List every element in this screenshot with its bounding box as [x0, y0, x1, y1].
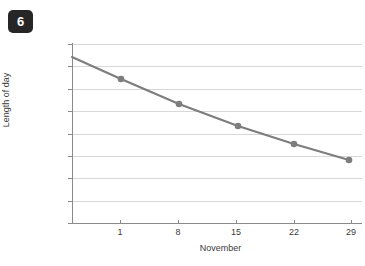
gridline-1030	[72, 156, 362, 157]
question-number-badge: 6	[8, 10, 33, 33]
y-tick-mark-1100	[68, 89, 72, 90]
y-tick-mark-1030	[68, 156, 72, 157]
x-tick-mark-15	[236, 220, 237, 224]
gridline-1040	[72, 134, 362, 135]
gridline-1020	[72, 178, 362, 179]
y-tick-mark-1050	[68, 111, 72, 112]
x-tick-label-29: 29	[336, 227, 365, 237]
y-tick-mark-1000	[68, 223, 72, 224]
x-tick-label-15: 15	[221, 227, 251, 237]
x-tick-mark-1	[120, 220, 121, 224]
y-axis-title: Length of day	[1, 50, 11, 150]
gridline-1100	[72, 89, 362, 90]
x-axis-line	[71, 223, 362, 224]
x-tick-label-22: 22	[279, 227, 309, 237]
y-tick-mark-1120	[68, 44, 72, 45]
gridline-1050	[72, 111, 362, 112]
y-tick-mark-1110	[68, 66, 72, 67]
chart-figure: 6 11:20 11:10 11:00 10:50 10:40 10:30 10…	[0, 0, 365, 266]
x-axis-title: November	[0, 243, 365, 253]
gridline-1120	[72, 44, 362, 45]
x-axis-title-text: November	[200, 243, 242, 253]
x-tick-mark-22	[294, 220, 295, 224]
plot-area	[72, 44, 362, 223]
y-tick-mark-1040	[68, 134, 72, 135]
question-number: 6	[17, 14, 24, 29]
y-axis-line	[72, 43, 73, 224]
gridline-1110	[72, 66, 362, 67]
x-tick-label-1: 1	[105, 227, 135, 237]
x-tick-mark-29	[351, 220, 352, 224]
x-tick-label-8: 8	[163, 227, 193, 237]
x-tick-mark-8	[178, 220, 179, 224]
y-tick-mark-1010	[68, 201, 72, 202]
gridline-1010	[72, 201, 362, 202]
y-tick-mark-1020	[68, 178, 72, 179]
